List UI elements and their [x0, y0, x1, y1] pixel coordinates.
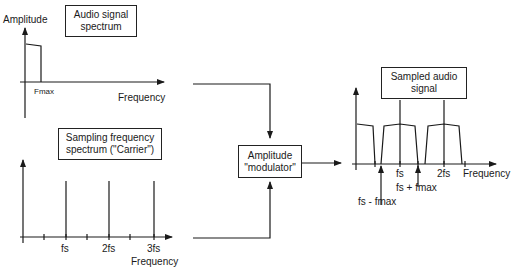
audio-spectrum-shape: [26, 44, 41, 82]
output-title-line2: signal: [382, 83, 466, 95]
audio-title-line2: spectrum: [66, 21, 136, 33]
audio-y-label: Amplitude: [3, 14, 47, 25]
fs-plus-fmax-label: fs + fmax: [396, 182, 437, 193]
output-tick-fs: fs: [396, 168, 404, 179]
modulator-line1: Amplitude: [239, 150, 301, 162]
carrier-title-line1: Sampling frequency: [59, 132, 161, 144]
carrier-title-box: Sampling frequency spectrum ("Carrier"): [58, 128, 162, 160]
carrier-tick-2fs: 2fs: [102, 243, 115, 254]
output-tick-2fs: 2fs: [437, 168, 450, 179]
audio-fmax-label: Fmax: [34, 86, 54, 97]
modulator-line2: "modulator": [239, 162, 301, 174]
output-x-label: Frequency: [463, 168, 510, 179]
audio-title-line1: Audio signal: [66, 9, 136, 21]
modulator-box: Amplitude "modulator": [238, 145, 302, 178]
carrier-to-modulator-arrow: [193, 182, 270, 238]
output-title-line1: Sampled audio: [382, 71, 466, 83]
carrier-tick-3fs: 3fs: [147, 243, 160, 254]
carrier-tick-fs: fs: [61, 243, 69, 254]
carrier-title-line2: spectrum ("Carrier"): [59, 144, 161, 156]
output-title-box: Sampled audio signal: [381, 67, 467, 99]
output-baseband: [357, 124, 375, 164]
carrier-x-label: Frequency: [131, 256, 178, 267]
audio-title-box: Audio signal spectrum: [65, 5, 137, 37]
audio-x-label: Frequency: [118, 92, 165, 103]
audio-to-modulator-arrow: [193, 84, 270, 138]
fs-minus-fmax-label: fs - fmax: [358, 196, 396, 207]
